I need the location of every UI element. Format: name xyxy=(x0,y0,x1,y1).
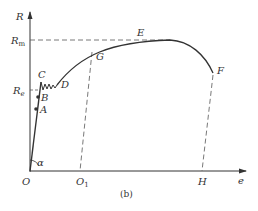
origin-label: O xyxy=(22,176,30,187)
label-a: A xyxy=(39,104,47,115)
label-o1: O1 xyxy=(76,176,89,189)
angle-label: α xyxy=(37,157,44,168)
label-f: F xyxy=(216,65,225,76)
stress-strain-diagram: R e O Rm Re A B C D E F G α O1 H (b) xyxy=(0,0,258,211)
figure-caption: (b) xyxy=(120,189,133,199)
x-axis-label: e xyxy=(238,175,244,186)
label-h: H xyxy=(197,176,207,187)
yield-zigzag xyxy=(41,82,57,90)
rm-label: Rm xyxy=(10,35,26,48)
point-a xyxy=(34,107,38,111)
label-e: E xyxy=(136,27,145,38)
re-label: Re xyxy=(12,85,25,98)
label-b: B xyxy=(40,92,48,103)
label-g: G xyxy=(96,51,104,62)
label-c: C xyxy=(38,69,46,80)
hardening-curve xyxy=(57,40,213,85)
g-unload-line xyxy=(80,52,92,171)
f-unload-line xyxy=(202,75,213,171)
label-d: D xyxy=(60,79,69,90)
y-axis-label: R xyxy=(15,11,24,22)
point-b xyxy=(36,95,40,99)
